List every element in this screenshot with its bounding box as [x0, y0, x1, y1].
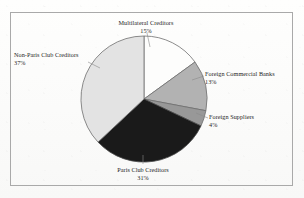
pie-label-foreign-suppliers-name: Foreign Suppliers [209, 113, 254, 121]
pie-label-non-paris-club-creditors: Non-Paris Club Creditors 37% [14, 51, 78, 66]
pie-label-paris-club-creditors-name: Paris Club Creditors [117, 166, 169, 174]
pie-label-multilateral-creditors-name: Multilateral Creditors [119, 19, 174, 27]
pie-chart: Multilateral Creditors 15% Foreign Comme… [0, 0, 304, 198]
pie-label-multilateral-creditors-value: 15% [119, 27, 174, 35]
pie-label-non-paris-club-creditors-name: Non-Paris Club Creditors [14, 51, 78, 59]
pie-label-foreign-commercial-banks-name: Foreign Commercial Banks [205, 70, 275, 78]
pie-label-foreign-suppliers-value: 4% [209, 121, 254, 129]
pie-label-foreign-suppliers: Foreign Suppliers 4% [209, 113, 254, 128]
pie-label-multilateral-creditors: Multilateral Creditors 15% [119, 19, 174, 34]
pie-label-foreign-commercial-banks-value: 13% [205, 78, 275, 86]
pie-label-non-paris-club-creditors-value: 37% [14, 59, 78, 67]
pie-label-paris-club-creditors-value: 31% [117, 174, 169, 182]
pie-label-paris-club-creditors: Paris Club Creditors 31% [117, 166, 169, 181]
pie-label-foreign-commercial-banks: Foreign Commercial Banks 13% [205, 70, 275, 85]
